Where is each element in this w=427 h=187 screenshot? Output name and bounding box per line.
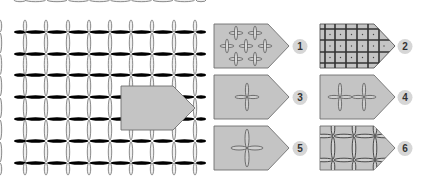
variant-1 bbox=[214, 24, 289, 68]
badge-3-label: 3 bbox=[297, 92, 303, 103]
variant-2 bbox=[320, 24, 395, 68]
woven-mesh-diagram: 1 2 bbox=[0, 0, 427, 187]
badge-1-label: 1 bbox=[297, 41, 303, 52]
badge-3: 3 bbox=[293, 90, 308, 105]
variant-3 bbox=[214, 75, 289, 119]
badge-1: 1 bbox=[293, 39, 308, 54]
badge-4: 4 bbox=[398, 90, 413, 105]
badge-4-label: 4 bbox=[402, 92, 408, 103]
badge-6-label: 6 bbox=[402, 143, 408, 154]
badge-2: 2 bbox=[398, 39, 413, 54]
badge-5-label: 5 bbox=[297, 143, 303, 154]
badge-2-label: 2 bbox=[402, 41, 408, 52]
horizontal-threads bbox=[14, 0, 206, 2]
variant-6 bbox=[315, 121, 395, 173]
variant-4 bbox=[320, 75, 395, 119]
variant-5 bbox=[214, 126, 289, 170]
badge-5: 5 bbox=[293, 141, 308, 156]
overlay-swatch bbox=[121, 86, 195, 130]
badge-6: 6 bbox=[398, 141, 413, 156]
